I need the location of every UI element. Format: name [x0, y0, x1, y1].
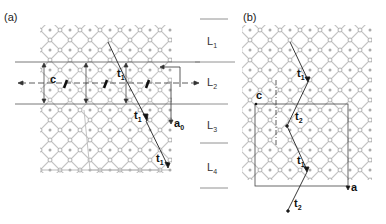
- c-label-a: c: [50, 74, 56, 85]
- lattice-panel-a: [40, 25, 172, 173]
- t1-label-b-top: t1: [297, 68, 305, 81]
- a-label-b: a: [351, 182, 357, 193]
- crystal-structure-diagram: [0, 0, 386, 224]
- panel-label-a: (a): [4, 12, 17, 23]
- layer-label-l2: L2: [207, 77, 217, 90]
- lattice-panel-b: [242, 25, 372, 180]
- a0-label: a0: [174, 118, 184, 131]
- layer-label-l1: L1: [207, 36, 217, 49]
- t2-label-b-mid: t2: [295, 111, 303, 124]
- t1-label-b-low: t1: [297, 155, 305, 168]
- c-marker-b: [255, 103, 258, 106]
- t2-label-b-bot: t2: [294, 198, 302, 211]
- c-label-b: c: [256, 90, 262, 101]
- layer-label-l4: L4: [207, 162, 217, 175]
- t1-label-a-mid: t1: [134, 110, 142, 123]
- layer-label-l3: L3: [207, 120, 217, 133]
- panel-label-b: (b): [243, 12, 256, 23]
- t1-label-a-bot: t1: [156, 153, 164, 166]
- a-vector-b: [346, 186, 350, 190]
- t1-label-a-top: t1: [117, 68, 125, 81]
